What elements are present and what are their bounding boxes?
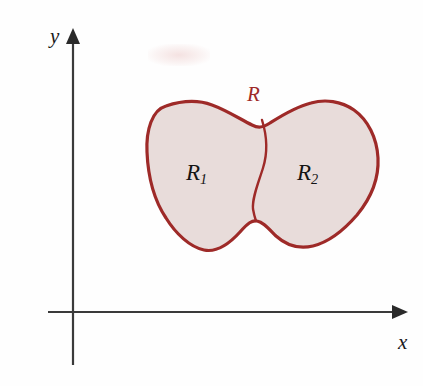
subregion-r1-subscript: 1 (200, 171, 207, 187)
x-axis-label: x (398, 330, 407, 355)
subregion-label-r1: R1 (186, 160, 207, 188)
y-axis-label: y (50, 24, 59, 49)
y-axis-arrowhead (66, 28, 80, 44)
region-shape-group (147, 101, 378, 251)
figure-graphic (0, 0, 423, 386)
subregion-r2-subscript: 2 (311, 171, 318, 187)
subregion-r2-base: R (297, 160, 311, 185)
region-boundary-label: R (247, 82, 260, 107)
subregion-r1-base: R (186, 160, 200, 185)
x-axis-arrowhead (392, 305, 408, 319)
subregion-label-r2: R2 (297, 160, 318, 188)
figure-canvas: y x R R1 R2 (0, 0, 423, 386)
